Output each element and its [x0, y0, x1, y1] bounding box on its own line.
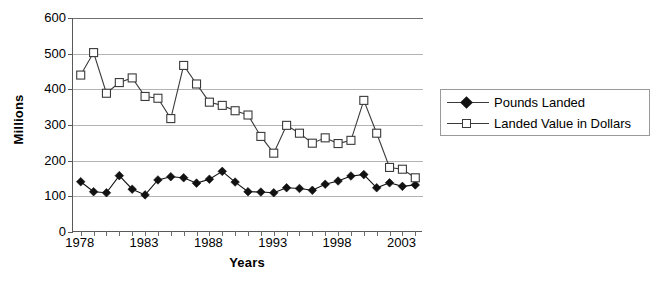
- series-pounds-landed: [76, 167, 419, 199]
- data-point-marker: [347, 172, 356, 181]
- y-tick-label: 100: [20, 189, 66, 202]
- data-point-marker: [295, 129, 303, 137]
- y-tick-label: 300: [20, 118, 66, 131]
- plot-area: [72, 18, 422, 232]
- data-point-marker: [321, 180, 330, 189]
- legend-label: Pounds Landed: [489, 96, 585, 110]
- data-point-marker: [180, 61, 188, 69]
- data-point-marker: [166, 172, 175, 181]
- legend-marker-filled-diamond-icon: [447, 96, 489, 110]
- data-point-marker: [167, 115, 175, 123]
- y-axis-tick-labels: 0100200300400500600: [18, 0, 66, 295]
- x-tick-label: 1998: [307, 236, 367, 250]
- data-point-marker: [308, 139, 316, 147]
- data-point-marker: [115, 79, 123, 87]
- data-point-marker: [269, 188, 278, 197]
- data-point-marker: [257, 132, 265, 140]
- x-tick-label: 1983: [114, 236, 174, 250]
- legend-marker-open-square-icon: [447, 117, 489, 131]
- data-point-marker: [321, 134, 329, 142]
- series-canvas: [73, 18, 423, 232]
- data-point-marker: [347, 136, 355, 144]
- data-point-marker: [192, 179, 201, 188]
- data-point-marker: [308, 186, 317, 195]
- data-point-marker: [386, 163, 394, 171]
- chart-figure: Millions 0100200300400500600 19781983198…: [0, 0, 654, 295]
- data-point-marker: [205, 98, 213, 106]
- data-point-marker: [102, 89, 110, 97]
- x-tick-label: 1978: [50, 236, 110, 250]
- y-tick-label: 600: [20, 11, 66, 24]
- y-tick-label: 400: [20, 82, 66, 95]
- data-point-marker: [128, 74, 136, 82]
- data-point-marker: [295, 184, 304, 193]
- data-point-marker: [334, 140, 342, 148]
- data-point-marker: [257, 188, 266, 197]
- y-tick-label: 500: [20, 47, 66, 60]
- data-point-marker: [102, 188, 111, 197]
- data-point-marker: [77, 71, 85, 79]
- chart-legend: Pounds Landed Landed Value in Dollars: [440, 89, 650, 136]
- x-tick-label: 1988: [178, 236, 238, 250]
- data-point-marker: [231, 107, 239, 115]
- y-tick-label: 200: [20, 154, 66, 167]
- legend-label: Landed Value in Dollars: [489, 117, 631, 131]
- data-point-marker: [244, 187, 253, 196]
- series-landed-value-in-dollars: [77, 49, 420, 182]
- data-point-marker: [244, 111, 252, 119]
- data-point-marker: [205, 175, 214, 184]
- data-point-marker: [141, 92, 149, 100]
- data-point-marker: [154, 94, 162, 102]
- data-point-marker: [193, 80, 201, 88]
- data-point-marker: [398, 165, 406, 173]
- data-point-marker: [411, 174, 419, 182]
- data-point-marker: [334, 177, 343, 186]
- data-point-marker: [385, 178, 394, 187]
- data-point-marker: [283, 121, 291, 129]
- y-tick-mark: [68, 232, 73, 233]
- data-point-marker: [218, 101, 226, 109]
- x-axis-title: Years: [72, 255, 422, 270]
- data-point-marker: [373, 129, 381, 137]
- legend-item-pounds-landed[interactable]: Pounds Landed: [447, 92, 585, 113]
- data-point-marker: [360, 96, 368, 104]
- legend-item-landed-value-in-dollars[interactable]: Landed Value in Dollars: [447, 113, 631, 134]
- x-tick-label: 1993: [243, 236, 303, 250]
- data-point-marker: [90, 49, 98, 57]
- data-point-marker: [398, 182, 407, 191]
- x-tick-label: 2003: [371, 236, 431, 250]
- data-point-marker: [179, 173, 188, 182]
- data-point-marker: [282, 183, 291, 192]
- data-point-marker: [270, 149, 278, 157]
